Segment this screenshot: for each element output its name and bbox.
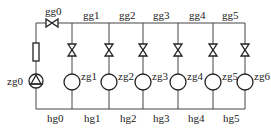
label-zg3: zg3 bbox=[152, 70, 168, 82]
label-zg4: zg4 bbox=[187, 70, 203, 82]
label-zg0: zg0 bbox=[7, 75, 23, 87]
filter-icon bbox=[33, 43, 39, 61]
heat-exchanger-zg5-icon bbox=[205, 74, 221, 90]
piping-diagram: gg0 zg0 zg1 zg2 zg3 zg4 bbox=[0, 0, 271, 135]
heat-exchanger-zg2-icon bbox=[101, 74, 117, 90]
branch-4 bbox=[170, 23, 186, 109]
branch-2 bbox=[101, 23, 117, 109]
label-hg4: hg4 bbox=[188, 112, 205, 124]
heat-exchanger-zg3-icon bbox=[135, 74, 151, 90]
branch-3 bbox=[135, 23, 151, 109]
heat-exchanger-zg6-icon bbox=[237, 74, 253, 90]
label-gg3: gg3 bbox=[153, 9, 170, 21]
label-hg5: hg5 bbox=[223, 112, 240, 124]
label-hg0: hg0 bbox=[47, 112, 64, 124]
label-hg3: hg3 bbox=[153, 112, 170, 124]
label-zg6: zg6 bbox=[254, 70, 270, 82]
label-gg1: gg1 bbox=[83, 9, 100, 21]
label-gg0: gg0 bbox=[45, 5, 62, 17]
label-gg2: gg2 bbox=[119, 9, 136, 21]
branch-5 bbox=[205, 23, 221, 109]
label-zg2: zg2 bbox=[118, 70, 134, 82]
branch-1 bbox=[64, 23, 80, 109]
label-gg5: gg5 bbox=[222, 9, 239, 21]
pump-zg0-icon bbox=[29, 74, 43, 88]
label-zg5: zg5 bbox=[222, 70, 238, 82]
label-hg2: hg2 bbox=[120, 112, 137, 124]
branch-6 bbox=[237, 23, 253, 109]
heat-exchanger-zg4-icon bbox=[170, 74, 186, 90]
label-zg1: zg1 bbox=[81, 70, 97, 82]
heat-exchanger-zg1-icon bbox=[64, 74, 80, 90]
valve-gg0-icon bbox=[46, 19, 58, 27]
label-gg4: gg4 bbox=[189, 9, 206, 21]
label-hg1: hg1 bbox=[84, 112, 101, 124]
